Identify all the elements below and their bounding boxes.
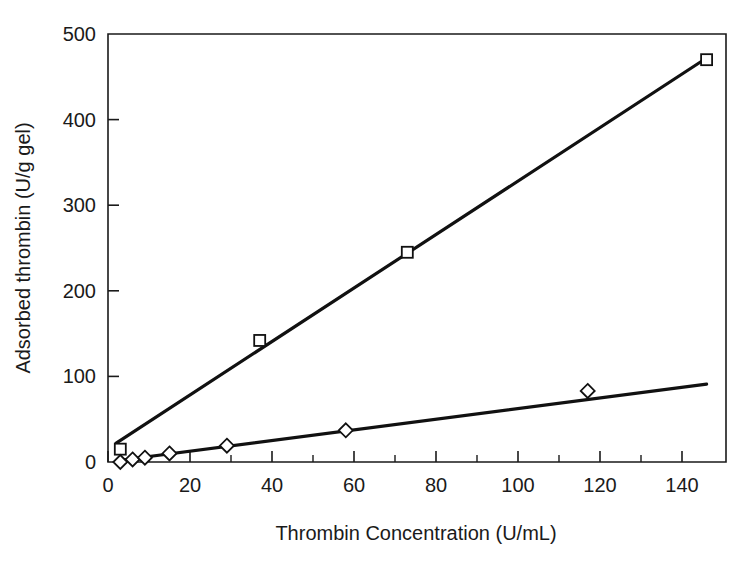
y-tick-label: 0	[85, 451, 96, 473]
marker-square	[115, 444, 126, 455]
x-tick-label: 120	[583, 474, 616, 496]
x-tick-label: 20	[179, 474, 201, 496]
data-markers	[113, 54, 712, 469]
x-tick-label: 60	[343, 474, 365, 496]
chart-svg: 020406080100120140 0100200300400500 Thro…	[0, 0, 744, 561]
fit-line-diamond-series	[120, 384, 706, 460]
y-tick-label: 100	[63, 365, 96, 387]
x-axis-tick-labels: 020406080100120140	[102, 474, 698, 496]
marker-diamond	[163, 446, 177, 460]
y-axis-title: Adsorbed thrombin (U/g gel)	[12, 122, 34, 373]
y-tick-label: 300	[63, 194, 96, 216]
y-axis-tick-labels: 0100200300400500	[63, 23, 96, 473]
marker-diamond	[339, 423, 353, 437]
y-axis-ticks	[108, 120, 119, 377]
y-tick-label: 400	[63, 109, 96, 131]
x-tick-label: 80	[425, 474, 447, 496]
chart-figure: 020406080100120140 0100200300400500 Thro…	[0, 0, 744, 561]
marker-square	[402, 247, 413, 258]
marker-diamond	[220, 439, 234, 453]
marker-diamond	[581, 384, 595, 398]
marker-diamond	[113, 455, 127, 469]
x-tick-label: 140	[665, 474, 698, 496]
marker-square	[254, 335, 265, 346]
y-tick-label: 200	[63, 280, 96, 302]
x-tick-label: 100	[501, 474, 534, 496]
x-tick-label: 40	[261, 474, 283, 496]
x-tick-label: 0	[102, 474, 113, 496]
marker-diamond	[126, 452, 140, 466]
x-axis-title: Thrombin Concentration (U/mL)	[275, 522, 556, 544]
regression-lines	[116, 58, 706, 460]
y-tick-label: 500	[63, 23, 96, 45]
x-axis-ticks	[108, 451, 682, 462]
marker-square	[701, 54, 712, 65]
